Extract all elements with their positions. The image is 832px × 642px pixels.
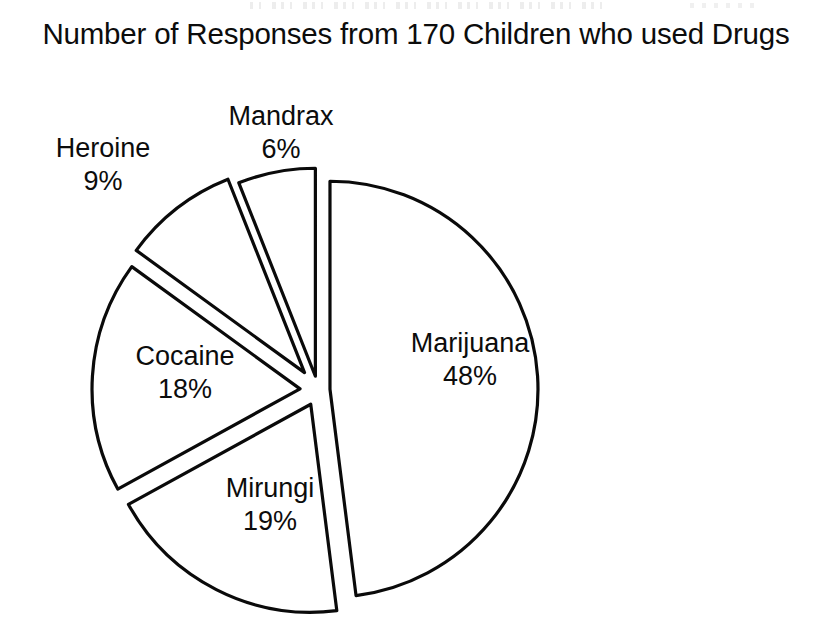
slice-label-mandrax-name: Mandrax xyxy=(196,100,366,133)
slice-label-cocaine-percent: 18% xyxy=(105,373,265,406)
slice-label-cocaine-name: Cocaine xyxy=(105,340,265,373)
slice-label-mirungi: Mirungi 19% xyxy=(190,472,350,538)
slice-label-mandrax-percent: 6% xyxy=(196,133,366,166)
pie-svg xyxy=(0,0,832,642)
pie-chart: Marijuana 48% Mirungi 19% Cocaine 18% He… xyxy=(0,0,832,642)
slice-label-marijuana-name: Marijuana xyxy=(385,327,555,360)
slice-label-marijuana-percent: 48% xyxy=(385,360,555,393)
slice-label-heroine-percent: 9% xyxy=(18,165,188,198)
slice-label-marijuana: Marijuana 48% xyxy=(385,327,555,393)
slice-label-mirungi-name: Mirungi xyxy=(190,472,350,505)
slice-label-cocaine: Cocaine 18% xyxy=(105,340,265,406)
slice-label-mandrax: Mandrax 6% xyxy=(196,100,366,166)
chart-page: Number of Responses from 170 Children wh… xyxy=(0,0,832,642)
slice-label-heroine: Heroine 9% xyxy=(18,132,188,198)
slice-label-heroine-name: Heroine xyxy=(18,132,188,165)
slice-label-mirungi-percent: 19% xyxy=(190,505,350,538)
